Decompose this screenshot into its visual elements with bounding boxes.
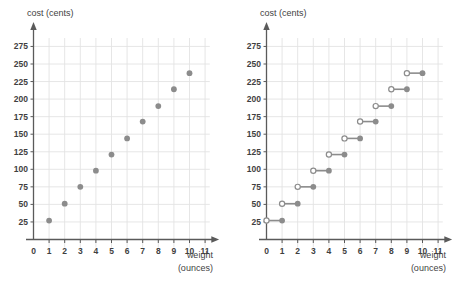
y-tick-label: 50: [252, 199, 262, 209]
x-tick-label: 8: [156, 246, 161, 256]
y-tick-label: 25: [252, 217, 262, 227]
y-tick-label: 175: [247, 112, 261, 122]
data-point-open[interactable]: [373, 104, 378, 109]
data-point-filled[interactable]: [357, 136, 363, 142]
y-tick-label: 250: [14, 59, 28, 69]
x-tick-label: 4: [327, 246, 332, 256]
chart-panel-scatter: 2550751001251501752002252502750123456789…: [0, 0, 233, 282]
data-point-open[interactable]: [264, 218, 269, 223]
x-tick-label: 0: [31, 246, 36, 256]
x-tick-label: 5: [342, 246, 347, 256]
y-axis-title: cost (cents): [27, 8, 74, 18]
data-point-filled[interactable]: [404, 86, 410, 92]
y-axis-title: cost (cents): [260, 8, 307, 18]
y-tick-label: 275: [247, 41, 261, 51]
data-point-open[interactable]: [326, 152, 331, 157]
x-axis-arrow-icon: [211, 236, 219, 242]
data-point-open[interactable]: [389, 87, 394, 92]
data-point-filled[interactable]: [279, 218, 285, 224]
data-point-filled[interactable]: [46, 218, 52, 224]
data-point-open[interactable]: [311, 168, 316, 173]
data-point-open[interactable]: [280, 201, 285, 206]
y-tick-label: 50: [19, 199, 29, 209]
data-point-filled[interactable]: [187, 70, 193, 76]
data-point-open[interactable]: [358, 119, 363, 124]
data-point-filled[interactable]: [342, 152, 348, 158]
scatter-plot-svg: 2550751001251501752002252502750123456789…: [0, 0, 233, 282]
x-axis-title-unit: (ounces): [178, 263, 213, 273]
y-tick-label: 275: [14, 41, 28, 51]
y-tick-label: 225: [14, 77, 28, 87]
figure-two-panel-cost-vs-weight: 2550751001251501752002252502750123456789…: [0, 0, 466, 282]
y-tick-label: 125: [14, 147, 28, 157]
data-point-filled[interactable]: [373, 119, 379, 125]
y-tick-label: 100: [14, 164, 28, 174]
y-tick-label: 225: [247, 77, 261, 87]
data-point-filled[interactable]: [420, 70, 426, 76]
x-tick-label: 9: [172, 246, 177, 256]
y-axis-arrow-icon: [30, 22, 36, 30]
x-tick-label: 6: [125, 246, 130, 256]
y-tick-label: 250: [247, 59, 261, 69]
x-tick-label: 2: [62, 246, 67, 256]
y-tick-label: 200: [247, 94, 261, 104]
data-point-open[interactable]: [404, 71, 409, 76]
x-tick-label: 9: [405, 246, 410, 256]
data-point-filled[interactable]: [93, 168, 99, 174]
y-tick-label: 200: [14, 94, 28, 104]
data-point-filled[interactable]: [124, 136, 130, 142]
x-tick-label: 4: [94, 246, 99, 256]
y-tick-label: 75: [19, 182, 29, 192]
x-tick-label: 8: [389, 246, 394, 256]
step-plot-svg: 2550751001251501752002252502750123456789…: [233, 0, 466, 282]
y-tick-label: 25: [19, 217, 29, 227]
x-tick-label: 3: [78, 246, 83, 256]
data-point-filled[interactable]: [171, 86, 177, 92]
x-tick-label: 7: [373, 246, 378, 256]
y-tick-label: 150: [14, 129, 28, 139]
x-axis-title: weight: [186, 250, 214, 260]
y-tick-label: 175: [14, 112, 28, 122]
data-point-filled[interactable]: [77, 184, 83, 190]
y-tick-label: 125: [247, 147, 261, 157]
data-point-filled[interactable]: [155, 103, 161, 109]
data-point-filled[interactable]: [140, 119, 146, 125]
y-tick-label: 150: [247, 129, 261, 139]
x-tick-label: 2: [295, 246, 300, 256]
y-tick-label: 100: [247, 164, 261, 174]
x-axis-title-unit: (ounces): [411, 263, 446, 273]
data-point-filled[interactable]: [295, 201, 301, 207]
x-tick-label: 3: [311, 246, 316, 256]
data-point-open[interactable]: [342, 136, 347, 141]
data-point-filled[interactable]: [388, 103, 394, 109]
x-axis-title: weight: [419, 250, 447, 260]
data-point-filled[interactable]: [310, 184, 316, 190]
data-point-filled[interactable]: [326, 168, 332, 174]
data-point-filled[interactable]: [109, 152, 115, 158]
x-tick-label: 1: [280, 246, 285, 256]
x-tick-label: 1: [47, 246, 52, 256]
y-tick-label: 75: [252, 182, 262, 192]
data-point-open[interactable]: [295, 184, 300, 189]
chart-panel-step: 2550751001251501752002252502750123456789…: [233, 0, 466, 282]
x-axis-arrow-icon: [444, 236, 452, 242]
x-tick-label: 6: [358, 246, 363, 256]
x-tick-label: 0: [264, 246, 269, 256]
y-axis-arrow-icon: [263, 22, 269, 30]
data-point-filled[interactable]: [62, 201, 68, 207]
x-tick-label: 5: [109, 246, 114, 256]
x-tick-label: 7: [140, 246, 145, 256]
